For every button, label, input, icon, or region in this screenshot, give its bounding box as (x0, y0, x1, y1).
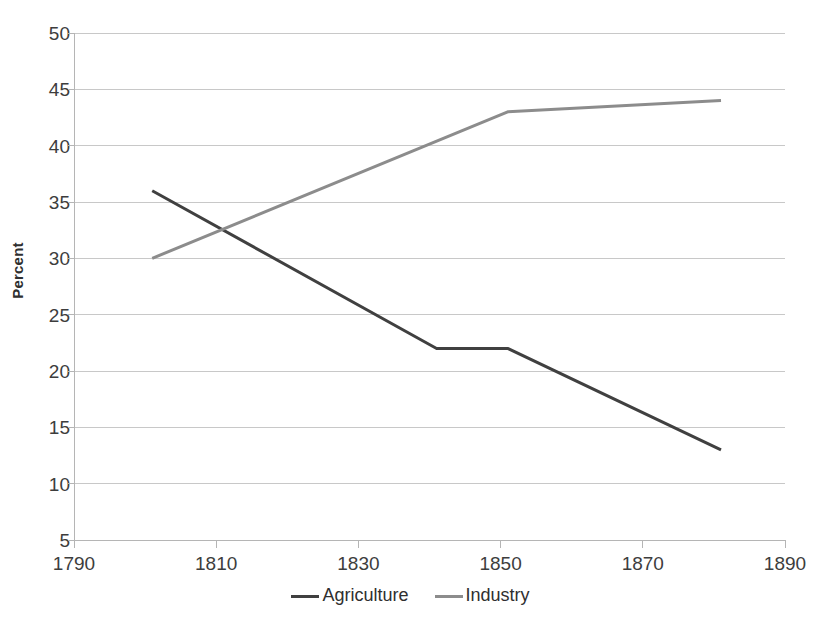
legend-item[interactable]: Agriculture (291, 586, 408, 604)
data-series (152, 101, 721, 450)
legend-item[interactable]: Industry (435, 586, 530, 604)
chart-legend: AgricultureIndustry (0, 586, 821, 604)
plot-area (0, 0, 821, 627)
legend-swatch-icon (291, 595, 319, 598)
legend-swatch-icon (435, 595, 463, 598)
line-chart: Percent 5045403530252015105 179018101830… (0, 0, 821, 627)
series-line-agriculture (152, 191, 721, 450)
axis-lines (74, 33, 785, 540)
legend-label: Agriculture (322, 586, 408, 604)
gridlines (74, 33, 785, 540)
series-line-industry (152, 101, 721, 259)
legend-label: Industry (466, 586, 530, 604)
axis-tickmarks (68, 33, 785, 548)
